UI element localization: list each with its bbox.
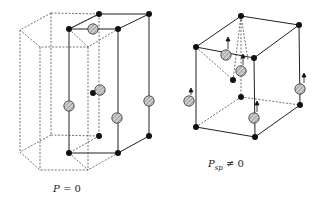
atoms-hatched-right	[184, 50, 305, 123]
caption-symbol: P	[53, 183, 60, 194]
caption-p-zero: P = 0	[53, 183, 81, 194]
caption-subscript: sp	[215, 164, 223, 172]
atoms-dark-left	[66, 11, 152, 156]
unit-cell-dashed-right	[196, 16, 300, 127]
unit-cell-solid-left	[69, 14, 149, 153]
caption-relation: = 0	[63, 183, 81, 194]
crystal-structure-diagram	[0, 0, 321, 201]
caption-psp-nonzero: Psp ≠ 0	[208, 158, 244, 172]
polarization-arrows	[189, 37, 306, 112]
unit-cell-solid-right	[196, 16, 300, 137]
caption-symbol: P	[208, 158, 215, 169]
atoms-hatched-left	[64, 24, 154, 123]
caption-relation: ≠ 0	[226, 158, 244, 169]
atoms-dark-right	[193, 13, 303, 140]
